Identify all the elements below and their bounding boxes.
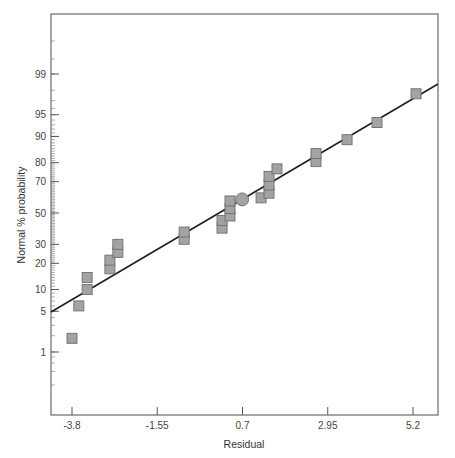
square-marker [179,227,189,237]
y-tick-label: 20 [35,258,47,269]
x-tick-label: -1.55 [146,420,169,431]
square-marker [67,333,77,343]
square-marker [372,118,382,128]
square-marker [411,89,421,99]
square-marker [225,196,235,206]
x-tick-label: 0.7 [236,420,250,431]
y-tick-label: 90 [35,131,47,142]
x-axis-ticks: -3.8-1.550.72.955.2 [63,407,420,431]
square-marker [272,164,282,174]
square-marker [82,273,92,283]
normal-probability-plot: 15102030507080909599 -3.8-1.550.72.955.2… [0,0,455,458]
square-marker [74,301,84,311]
x-tick-label: 5.2 [406,420,420,431]
y-tick-label: 5 [40,306,46,317]
square-marker [82,285,92,295]
data-points [67,89,421,344]
y-tick-label: 99 [35,69,47,80]
y-tick-label: 10 [35,284,47,295]
y-axis-title: Normal % probability [15,166,27,264]
x-axis-title: Residual [224,438,265,450]
y-tick-label: 30 [35,239,47,250]
x-tick-label: 2.95 [318,420,338,431]
plot-frame [51,14,438,415]
y-tick-label: 50 [35,208,47,219]
y-axis-major-ticks: 15102030507080909599 [35,69,59,358]
y-tick-label: 70 [35,176,47,187]
square-marker [113,239,123,249]
square-marker [311,149,321,159]
y-tick-label: 1 [40,347,46,358]
y-tick-label: 95 [35,109,47,120]
y-tick-label: 80 [35,157,47,168]
x-tick-label: -3.8 [63,420,81,431]
square-marker [342,135,352,145]
circle-marker [236,193,249,206]
